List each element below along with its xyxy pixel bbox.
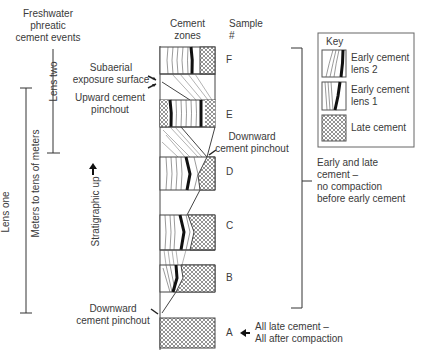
- header-sample: Sample #: [229, 18, 263, 42]
- subaerial-line-2: exposure surface: [72, 74, 150, 86]
- label-subaerial: Subaerial exposure surface: [72, 62, 150, 86]
- key-lens1-line-1: Early cement: [351, 84, 409, 96]
- key-label-late: Late cement: [351, 122, 406, 134]
- gap-e-d: [160, 127, 215, 157]
- key-swatch-lens2: [322, 50, 346, 77]
- key-label-lens2: Early cement lens 2: [351, 52, 409, 76]
- title-line-2: phreatic: [8, 20, 88, 32]
- key-swatch-lens1: [322, 82, 346, 110]
- header-sample-line-1: Sample: [229, 18, 263, 30]
- sample-label-a: A: [226, 327, 233, 339]
- all-late-line-2: All after compaction: [255, 333, 343, 345]
- label-downward-pinchout-low: Downward cement pinchout: [76, 303, 150, 327]
- header-cement-line-2: zones: [160, 30, 215, 42]
- label-early-late: Early and late cement – no compaction be…: [317, 157, 405, 205]
- label-downward-pinchout-mid: Downward cement pinchout: [213, 131, 291, 155]
- key-label-lens1: Early cement lens 1: [351, 84, 409, 108]
- sample-f-block: [160, 47, 215, 74]
- subaerial-line-1: Subaerial: [72, 62, 150, 74]
- header-cement-zones: Cement zones: [160, 18, 215, 42]
- title-line-1: Freshwater: [8, 8, 88, 20]
- key-lens2-line-1: Early cement: [351, 52, 409, 64]
- downward-low-line-2: cement pinchout: [76, 315, 150, 327]
- all-late-line-1: All late cement –: [255, 321, 343, 333]
- gap-c-b: [160, 250, 215, 265]
- early-late-line-1: Early and late: [317, 157, 405, 169]
- upward-line-2: pinchout: [74, 104, 146, 116]
- label-lens-one: Lens one: [0, 193, 11, 233]
- key-lens1-line-2: lens 1: [351, 96, 409, 108]
- sample-b-block: [160, 265, 215, 292]
- sample-label-f: F: [226, 54, 232, 66]
- title-line-3: cement events: [8, 32, 88, 44]
- sample-label-c: C: [226, 220, 233, 232]
- label-all-late: All late cement – All after compaction: [255, 321, 343, 345]
- label-upward-pinchout: Upward cement pinchout: [74, 92, 146, 116]
- right-bracket: [291, 48, 312, 308]
- sample-e-block: [160, 100, 215, 127]
- label-meters: Meters to tens of meters: [30, 124, 41, 244]
- label-stratigraphic-up: Stratigraphic up: [90, 172, 101, 252]
- arrow-all-late-icon: [240, 329, 250, 337]
- early-late-line-3: no compaction: [317, 181, 405, 193]
- early-late-line-4: before early cement: [317, 193, 405, 205]
- key-title: Key: [326, 36, 343, 48]
- header-sample-line-2: #: [229, 30, 263, 42]
- gap-f-e: [160, 74, 215, 100]
- sample-a-block: [160, 318, 215, 348]
- sample-label-d: D: [226, 166, 233, 178]
- label-lens-two: Lens two: [48, 62, 59, 102]
- header-cement-line-1: Cement: [160, 18, 215, 30]
- title-left: Freshwater phreatic cement events: [8, 8, 88, 44]
- sample-c-block: [160, 215, 215, 250]
- downward-low-line-1: Downward: [76, 303, 150, 315]
- upward-line-1: Upward cement: [74, 92, 146, 104]
- downward-mid-line-1: Downward: [213, 131, 291, 143]
- key-lens2-line-2: lens 2: [351, 64, 409, 76]
- early-late-line-2: cement –: [317, 169, 405, 181]
- sample-d-block: [160, 157, 215, 190]
- sample-label-b: B: [226, 272, 233, 284]
- sample-label-e: E: [226, 109, 233, 121]
- key-swatch-late: [322, 115, 346, 141]
- downward-mid-line-2: cement pinchout: [213, 143, 291, 155]
- arrow-downward-pinchout-low-icon: [151, 309, 158, 314]
